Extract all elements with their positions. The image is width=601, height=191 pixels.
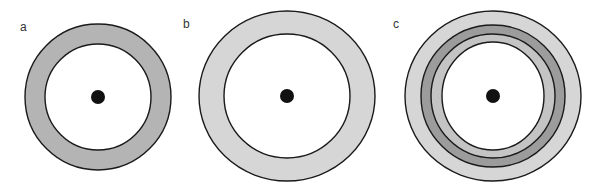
center-dot bbox=[280, 89, 294, 103]
panel-a: a bbox=[20, 20, 171, 170]
panel-b: b bbox=[183, 11, 375, 181]
figure-canvas: a b c bbox=[0, 0, 601, 191]
panel-c: c bbox=[393, 11, 581, 181]
panel-label-b: b bbox=[183, 17, 190, 31]
center-dot bbox=[486, 89, 500, 103]
panel-label-a: a bbox=[20, 20, 27, 34]
center-dot bbox=[91, 90, 105, 104]
panel-label-c: c bbox=[393, 17, 399, 31]
